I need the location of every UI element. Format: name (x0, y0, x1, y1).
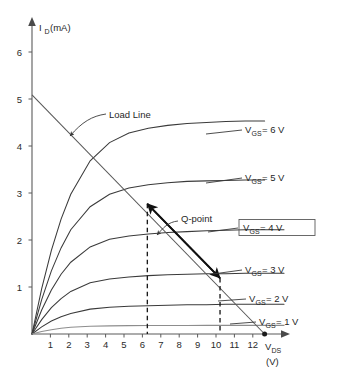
y-tick-label-5: 5 (17, 94, 22, 105)
y-tick-label-6: 6 (17, 47, 22, 58)
q-point-label: Q-point (181, 213, 213, 224)
x-tick-group: 1 2 3 4 5 6 7 8 9 10 11 12 (48, 334, 258, 350)
x-tick-label-6: 6 (140, 339, 145, 350)
load-line-label: Load Line (109, 109, 151, 120)
y-tick-group: 1 2 3 4 5 6 (17, 47, 32, 293)
y-axis-title-unit: (mA) (50, 22, 71, 33)
y-axis-arrowhead (28, 17, 36, 26)
vgs-subscript: GS (250, 228, 260, 235)
curve-label-leader (230, 322, 256, 324)
curve-vgs-4v (32, 230, 284, 334)
vgs-subscript: GS (252, 270, 262, 277)
load-line-leader-arrow (70, 114, 106, 136)
load-line (32, 95, 265, 334)
y-axis-title: I D (mA) (39, 22, 71, 35)
x-tick-label-2: 2 (66, 339, 71, 350)
chart-canvas: 1 2 3 4 5 6 I D (mA) 1 2 3 (0, 0, 337, 371)
curve-label-vgs-3v: V GS = 3 V (213, 264, 285, 277)
x-axis-title-sub: DS (272, 347, 282, 354)
vgs-value-2v: = 2 V (266, 293, 289, 304)
x-tick-label-3: 3 (85, 339, 90, 350)
curve-vgs-2v (32, 304, 284, 334)
vgs-value-6v: = 6 V (262, 124, 285, 135)
curve-label-vgs-5v: V GS = 5 V (206, 172, 285, 185)
vgs-subscript: GS (266, 322, 276, 329)
curve-label-leader (206, 130, 242, 134)
vgs-value-3v: = 3 V (262, 264, 285, 275)
y-axis-title-sub: D (45, 28, 50, 35)
curve-vgs-1v (32, 325, 284, 334)
load-line-annotation: Load Line (70, 109, 151, 136)
vgs-subscript: GS (252, 178, 262, 185)
x-axis-arrowhead (281, 330, 290, 338)
curve-label-vgs-6v: V GS = 6 V (206, 124, 285, 137)
x-axis-title-unit: (V) (266, 356, 279, 367)
y-axis-title-main: I (39, 22, 42, 33)
vgs-subscript: GS (256, 299, 266, 306)
y-tick-label-4: 4 (17, 141, 22, 152)
vgs-value-1v: = 1 V (276, 316, 299, 327)
y-tick-label-3: 3 (17, 188, 22, 199)
vgs-value-4v: = 4 V (260, 222, 283, 233)
jfet-drain-characteristics-figure: 1 2 3 4 5 6 I D (mA) 1 2 3 (0, 0, 337, 371)
x-tick-label-5: 5 (121, 339, 126, 350)
curve-label-vgs-1v: V GS = 1 V (230, 316, 299, 329)
x-tick-label-9: 9 (195, 339, 200, 350)
vgs-value-5v: = 5 V (262, 172, 285, 183)
vgs-subscript: GS (252, 130, 262, 137)
curve-vgs-6v (32, 121, 265, 334)
x-tick-label-10: 10 (211, 339, 222, 350)
x-tick-label-1: 1 (48, 339, 53, 350)
y-tick-label-2: 2 (17, 235, 22, 246)
x-tick-label-7: 7 (158, 339, 163, 350)
x-axis-title: V DS (V) (265, 341, 282, 367)
x-tick-label-8: 8 (177, 339, 182, 350)
x-tick-label-12: 12 (248, 339, 259, 350)
x-tick-label-11: 11 (229, 339, 239, 350)
load-line-endpoint-marker (262, 332, 267, 337)
x-tick-label-4: 4 (103, 339, 108, 350)
y-tick-label-1: 1 (17, 282, 22, 293)
curve-label-vgs-4v: V GS = 4 V (208, 220, 315, 236)
